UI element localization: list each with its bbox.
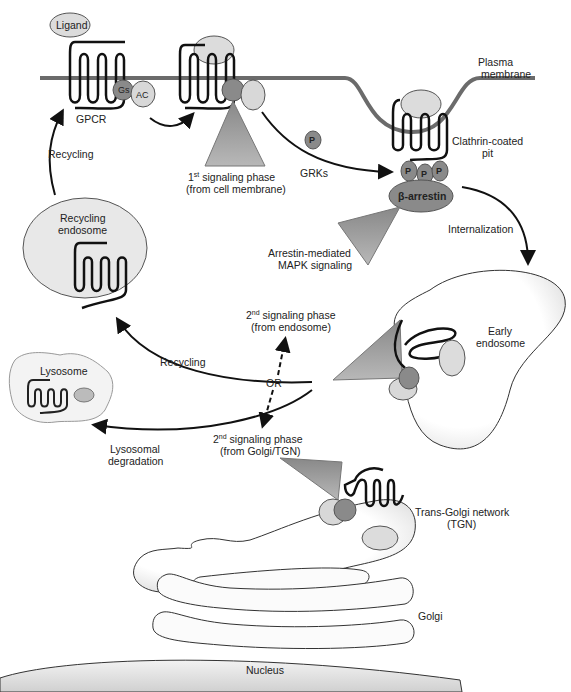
gpcr-receptor-6 <box>345 468 403 506</box>
endo-light-protein <box>439 340 465 376</box>
second-endo-label-2: (from endosome) <box>251 321 331 333</box>
grk-arrow <box>262 112 390 172</box>
lysosome-shape <box>9 353 112 423</box>
gpcr-receptor-1 <box>70 42 125 109</box>
second-phase-endo-triangle <box>333 320 402 380</box>
nucleus-shape <box>0 660 462 692</box>
endo-dashed-arrow <box>278 340 285 375</box>
golgi-label: Golgi <box>418 610 443 622</box>
nucleus-label: Nucleus <box>246 664 284 676</box>
tgn-label-1: Trans-Golgi network <box>415 506 509 518</box>
tgn-g-protein <box>334 499 356 521</box>
recycling-endosome-label-1: Recycling <box>60 212 106 224</box>
phospho-label-3: P <box>436 165 442 177</box>
lysosome-vesicle <box>74 388 94 402</box>
arrestin-mapk-label-2: MAPK signaling <box>278 259 352 271</box>
internalization-label: Internalization <box>448 223 513 235</box>
first-phase-text: signaling phase <box>199 171 275 183</box>
clathrin-label-2: pit <box>482 147 493 159</box>
gs-label: Gs <box>118 84 130 96</box>
or-label: OR <box>266 377 282 389</box>
first-phase-label: 1st signaling phase <box>188 171 275 183</box>
second-endo-sup: nd <box>252 309 260 316</box>
tgn-light-protein <box>362 526 398 550</box>
second-golgi-label: 2nd signaling phase <box>213 433 303 445</box>
p-free-label: P <box>309 134 315 146</box>
phospho-label-2: P <box>421 168 427 180</box>
first-phase-triangle <box>205 101 265 166</box>
second-golgi-label-2: (from Golgi/TGN) <box>220 445 301 457</box>
activation-arrow <box>150 115 192 126</box>
second-golgi-sup: nd <box>219 433 227 440</box>
recycling-endosome-label-2: endosome <box>58 224 107 236</box>
grks-label: GRKs <box>300 167 328 179</box>
second-endo-text: signaling phase <box>260 309 336 321</box>
second-endo-label: 2nd signaling phase <box>246 309 336 321</box>
lysosomal-label-2: degradation <box>108 455 163 467</box>
arrestin-mapk-label-1: Arrestin-mediated <box>268 247 351 259</box>
effector <box>241 80 265 110</box>
golgi-cisterna-3 <box>153 612 414 649</box>
endo-g-protein <box>399 367 419 389</box>
bound-ligand <box>194 36 234 64</box>
ac-label: AC <box>136 89 149 101</box>
ligand-label: Ligand <box>56 19 88 31</box>
second-golgi-text: signaling phase <box>227 433 303 445</box>
plasma-membrane-label-1: Plasma <box>478 56 513 68</box>
plasma-membrane-label-2: membrane <box>481 68 531 80</box>
golgi-dashed-arrow <box>263 390 273 425</box>
phospho-label-1: P <box>405 165 411 177</box>
early-endosome-label-2: endosome <box>476 337 525 349</box>
recycling-top-label: Recycling <box>48 148 94 160</box>
lysosomal-label-1: Lysosomal <box>110 443 160 455</box>
first-phase-label-2: (from cell membrane) <box>186 183 286 195</box>
lysosome-label: Lysosome <box>40 365 87 377</box>
clathrin-label-1: Clathrin-coated <box>452 135 523 147</box>
beta-arrestin-label: β-arrestin <box>398 190 446 202</box>
recycling-mid-label: Recycling <box>160 356 206 368</box>
second-phase-golgi-triangle <box>280 458 342 500</box>
early-endosome-label-1: Early <box>488 325 512 337</box>
gpcr-label: GPCR <box>76 113 106 125</box>
tgn-label-2: (TGN) <box>447 518 476 530</box>
lysosomal-arrow <box>95 390 312 430</box>
